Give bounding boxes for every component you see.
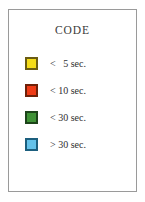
legend-item: < 5 sec. bbox=[9, 57, 136, 84]
legend-item-label: < 30 sec. bbox=[50, 112, 86, 123]
swatch-blue-icon bbox=[25, 138, 38, 151]
legend-panel: CODE < 5 sec. < 10 sec. < 30 sec. > 30 s… bbox=[8, 9, 137, 192]
legend-item: > 30 sec. bbox=[9, 138, 136, 165]
legend-item: < 30 sec. bbox=[9, 111, 136, 138]
legend-entry-list: < 5 sec. < 10 sec. < 30 sec. > 30 sec. bbox=[9, 57, 136, 165]
swatch-green-icon bbox=[25, 111, 38, 124]
swatch-red-icon bbox=[25, 84, 38, 97]
legend-item-label: < 5 sec. bbox=[50, 58, 86, 69]
swatch-yellow-icon bbox=[25, 57, 38, 70]
legend-item-label: < 10 sec. bbox=[50, 85, 86, 96]
legend-title: CODE bbox=[9, 24, 136, 36]
legend-item-label: > 30 sec. bbox=[50, 139, 86, 150]
legend-item: < 10 sec. bbox=[9, 84, 136, 111]
